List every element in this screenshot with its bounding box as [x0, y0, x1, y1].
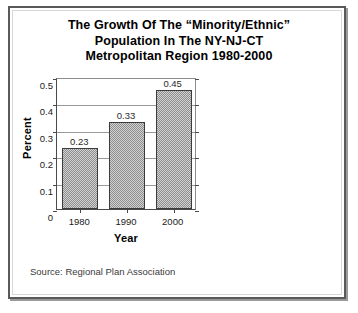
- title-line-1: The Growth Of The “Minority/Ethnic”: [10, 18, 348, 34]
- y-axis-tick-mark: [53, 158, 57, 159]
- y-axis-tick-label: 0: [18, 213, 53, 222]
- y-axis-tick-mark-right: [195, 185, 199, 186]
- x-axis-tick-mark: [80, 209, 81, 213]
- title-line-3: Metropolitan Region 1980-2000: [10, 49, 348, 65]
- y-axis-tick-mark: [53, 105, 57, 106]
- y-axis-tick-mark: [53, 132, 57, 133]
- x-axis-tick-label: 1980: [56, 217, 102, 227]
- y-axis-tick-mark: [53, 211, 57, 212]
- bar-value-label: 0.45: [150, 79, 196, 89]
- screenshot-root: The Growth Of The “Minority/Ethnic” Popu…: [0, 0, 358, 313]
- chart-panel: The Growth Of The “Minority/Ethnic” Popu…: [8, 6, 346, 299]
- bar-chart: Percent 0.50.40.30.20.10 Year 0.2319800.…: [10, 70, 348, 255]
- y-axis-tick-mark-right: [195, 132, 199, 133]
- x-axis-tick-mark: [127, 209, 128, 213]
- x-axis-title: Year: [56, 232, 196, 244]
- y-axis-tick-label: 0.4: [18, 107, 53, 116]
- x-axis-tick-mark: [174, 209, 175, 213]
- y-axis-tick-label: 0.1: [18, 187, 53, 196]
- bar: [109, 122, 145, 209]
- bar: [62, 148, 98, 209]
- x-axis-tick-label: 2000: [150, 217, 196, 227]
- y-axis-tick-label: 0.3: [18, 134, 53, 143]
- bar-value-label: 0.33: [103, 111, 149, 121]
- y-axis-tick-mark: [53, 185, 57, 186]
- y-axis-tick-mark: [53, 79, 57, 80]
- y-axis-tick-mark-right: [195, 105, 199, 106]
- bar-value-label: 0.23: [56, 137, 102, 147]
- y-axis-tick-labels: 0.50.40.30.20.10: [18, 78, 53, 210]
- bar: [156, 90, 192, 209]
- y-axis-tick-label: 0.5: [18, 81, 53, 90]
- y-axis-tick-mark-right: [195, 158, 199, 159]
- title-line-2: Population In The NY-NJ-CT: [10, 34, 348, 50]
- page-title: The Growth Of The “Minority/Ethnic” Popu…: [10, 18, 348, 65]
- y-axis-tick-mark-right: [195, 211, 199, 212]
- source-note: Source: Regional Plan Association: [30, 266, 175, 277]
- y-axis-tick-label: 0.2: [18, 160, 53, 169]
- x-axis-tick-label: 1990: [103, 217, 149, 227]
